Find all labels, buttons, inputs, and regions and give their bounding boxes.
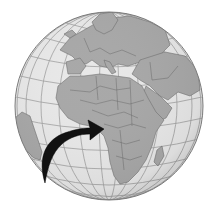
globe-map	[0, 0, 219, 215]
globe-illustration	[0, 0, 219, 215]
